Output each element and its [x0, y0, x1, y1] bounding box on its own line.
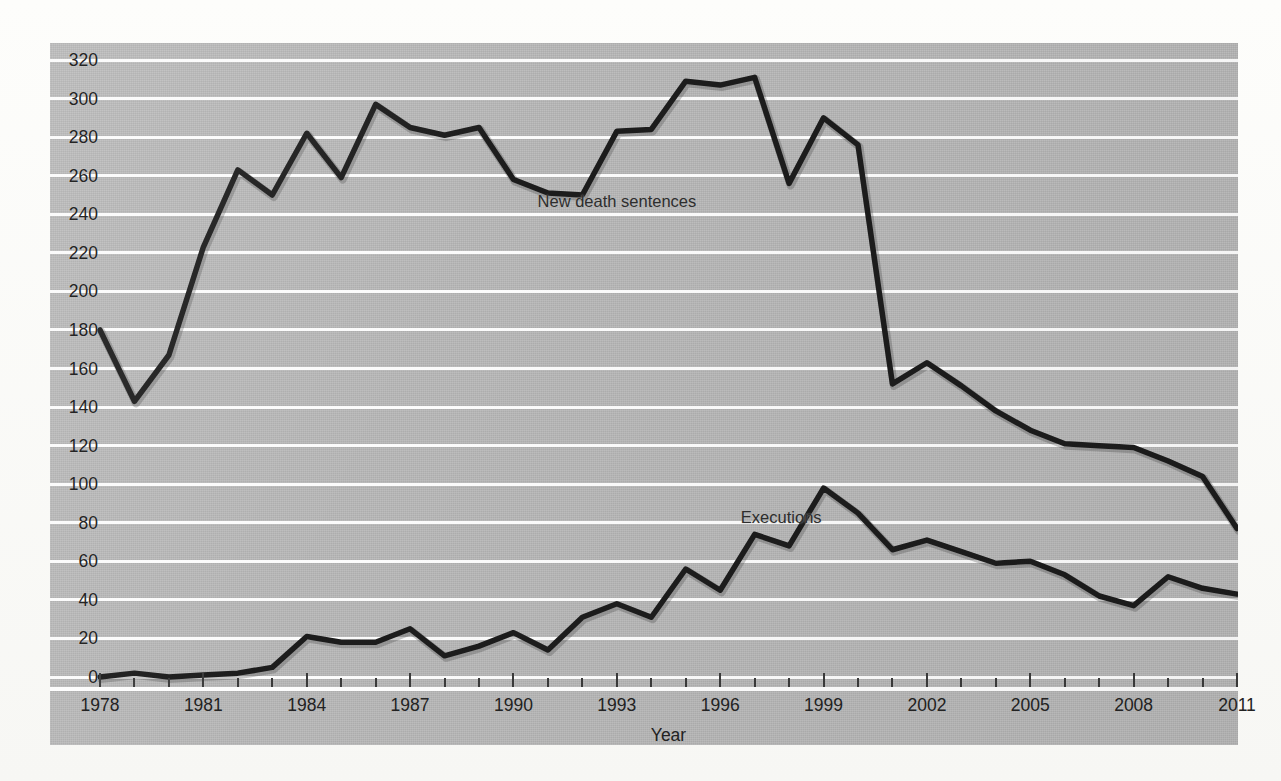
- series-label-new-death-sentences: New death sentences: [538, 192, 697, 211]
- chart-page: New death sentencesExecutions 0204060801…: [0, 0, 1281, 781]
- x-axis-tick-label: 1999: [804, 695, 843, 716]
- x-axis-minor-tick: [547, 678, 549, 687]
- x-axis-minor-tick: [271, 678, 273, 687]
- x-axis-minor-tick: [650, 678, 652, 687]
- x-axis-major-tick: [512, 673, 514, 687]
- x-axis-tick-label: 1996: [701, 695, 740, 716]
- series-line-executions: [100, 488, 1237, 677]
- x-axis-minor-tick: [960, 678, 962, 687]
- x-axis-major-tick: [719, 673, 721, 687]
- x-axis-major-tick: [616, 673, 618, 687]
- x-axis-minor-tick: [891, 678, 893, 687]
- series-line-shadow: [102, 79, 1239, 530]
- x-axis-major-tick: [202, 673, 204, 687]
- series-lines: [50, 43, 1238, 745]
- x-axis-minor-tick: [444, 678, 446, 687]
- x-axis-minor-tick: [237, 678, 239, 687]
- x-axis-minor-tick: [168, 678, 170, 687]
- plot-area: New death sentencesExecutions: [50, 43, 1238, 745]
- x-axis-major-tick: [306, 673, 308, 687]
- x-axis-minor-tick: [1202, 678, 1204, 687]
- x-axis-tick-label: 2005: [1011, 695, 1050, 716]
- x-axis-minor-tick: [995, 678, 997, 687]
- x-axis-major-tick: [1133, 673, 1135, 687]
- x-axis-major-tick: [823, 673, 825, 687]
- x-axis-line: [50, 687, 1238, 691]
- x-axis-tick-label: 1981: [184, 695, 223, 716]
- x-axis-tick-label: 2008: [1114, 695, 1153, 716]
- x-axis-title: Year: [651, 725, 686, 746]
- x-axis-major-tick: [926, 673, 928, 687]
- x-axis-minor-tick: [1098, 678, 1100, 687]
- x-axis-minor-tick: [340, 678, 342, 687]
- x-axis-tick-label: 1978: [81, 695, 120, 716]
- x-axis-minor-tick: [478, 678, 480, 687]
- x-axis-minor-tick: [1167, 678, 1169, 687]
- series-label-executions: Executions: [741, 508, 822, 527]
- x-axis-tick-label: 2011: [1218, 695, 1256, 716]
- x-axis-tick-label: 1993: [597, 695, 636, 716]
- x-axis-minor-tick: [754, 678, 756, 687]
- x-axis-tick-label: 1984: [287, 695, 326, 716]
- x-axis-tick-label: 2002: [907, 695, 946, 716]
- x-axis-major-tick: [99, 673, 101, 687]
- x-axis-major-tick: [409, 673, 411, 687]
- x-axis-minor-tick: [375, 678, 377, 687]
- x-axis-minor-tick: [581, 678, 583, 687]
- x-axis-major-tick: [1029, 673, 1031, 687]
- x-axis-tick-label: 1990: [494, 695, 533, 716]
- x-axis-major-tick: [1236, 673, 1238, 687]
- x-axis-minor-tick: [685, 678, 687, 687]
- x-axis-minor-tick: [1064, 678, 1066, 687]
- x-axis-tick-label: 1987: [391, 695, 430, 716]
- series-line-new-death-sentences: [100, 77, 1237, 528]
- x-axis-minor-tick: [788, 678, 790, 687]
- series-line-shadow: [102, 490, 1239, 679]
- x-axis-minor-tick: [857, 678, 859, 687]
- x-axis-minor-tick: [133, 678, 135, 687]
